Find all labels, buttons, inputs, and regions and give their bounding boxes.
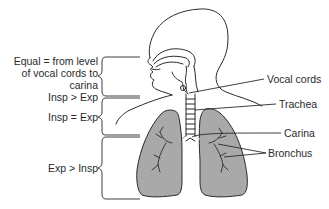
lower-zone-bracket — [98, 137, 140, 199]
vocal-cords-leader — [189, 79, 264, 93]
upper-zone-label-line-1: Equal = from level — [2, 55, 98, 67]
middle-zone-label: Insp = Exp — [2, 111, 98, 123]
upper-zone-label-line-2: of vocal cords to — [2, 67, 98, 79]
trachea-leader — [195, 104, 276, 110]
upper-zone-bracket — [98, 57, 140, 96]
upper-zone-sub-label: Insp > Exp — [2, 91, 98, 103]
lower-zone-label: Exp > Insp — [2, 162, 98, 174]
middle-zone-label-line-1: Insp = Exp — [2, 111, 98, 123]
left-lung — [137, 110, 182, 197]
airway-diagram: Equal = from level of vocal cords to car… — [0, 0, 329, 209]
face-profile — [148, 58, 172, 95]
carina-label: Carina — [284, 127, 315, 139]
lower-zone-label-line-1: Exp > Insp — [2, 162, 98, 174]
middle-zone-bracket — [98, 98, 140, 135]
upper-zone-label-line-3: carina — [2, 79, 98, 91]
trachea-label: Trachea — [279, 98, 317, 110]
right-lung — [199, 109, 247, 197]
upper-zone-label: Equal = from level of vocal cords to car… — [2, 55, 98, 103]
pharynx — [185, 66, 188, 94]
bronchus-label: Bronchus — [268, 147, 312, 159]
vocal-cords-label: Vocal cords — [267, 73, 321, 85]
